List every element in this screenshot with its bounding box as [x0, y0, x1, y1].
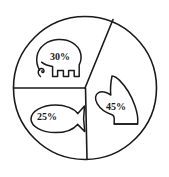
slice-label-fish: 25%	[37, 112, 57, 122]
slice-label-elephant: 30%	[50, 52, 70, 62]
slice-label-whale: 45%	[106, 102, 126, 112]
pie-chart: 30% 45% 25%	[0, 0, 169, 177]
pie-chart-svg	[0, 0, 169, 177]
